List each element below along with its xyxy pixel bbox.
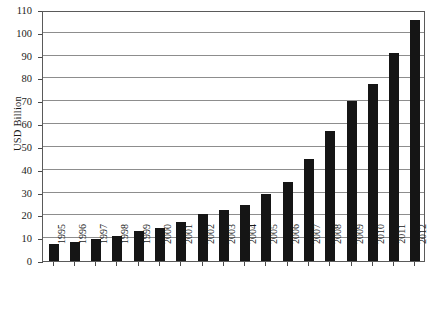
x-axis-tick-mark <box>53 262 54 266</box>
x-axis-tick-mark <box>202 262 203 266</box>
y-axis-tick-mark <box>38 262 43 263</box>
x-axis-tick-label: 2004 <box>248 224 258 266</box>
x-axis-tick-mark <box>223 262 224 266</box>
x-axis-tick-mark <box>159 262 160 266</box>
x-axis-tick-mark <box>265 262 266 266</box>
x-axis-tick-label: 2009 <box>355 224 365 266</box>
x-axis-tick-label: 2006 <box>291 224 301 266</box>
x-axis-tick-label: 2000 <box>163 224 173 266</box>
y-axis-tick-label: 90 <box>2 52 32 62</box>
x-axis-tick-mark <box>372 262 373 266</box>
x-axis-tick-label: 2001 <box>184 224 194 266</box>
x-axis-tick-label: 2002 <box>206 224 216 266</box>
x-axis-tick-mark <box>287 262 288 266</box>
x-axis-tick-mark <box>180 262 181 266</box>
x-axis-tick-mark <box>414 262 415 266</box>
x-axis-tick-label: 2010 <box>376 224 386 266</box>
x-axis-tick-label: 1999 <box>142 224 152 266</box>
x-axis-tick-mark <box>116 262 117 266</box>
x-axis-tick-label: 2008 <box>333 224 343 266</box>
x-axis-tick-label: 1995 <box>57 224 67 266</box>
y-axis-tick-label: 100 <box>2 29 32 39</box>
y-axis-tick-label: 20 <box>2 211 32 221</box>
y-axis-tick-label: 60 <box>2 120 32 130</box>
x-axis-tick-mark <box>351 262 352 266</box>
y-axis-tick-label: 30 <box>2 189 32 199</box>
x-axis-tick-mark <box>244 262 245 266</box>
x-axis-tick-label: 1996 <box>78 224 88 266</box>
y-axis-tick-label: 70 <box>2 97 32 107</box>
x-axis-tick-mark <box>308 262 309 266</box>
x-axis-tick-mark <box>329 262 330 266</box>
y-axis-tick-label: 40 <box>2 166 32 176</box>
y-axis-tick-label: 110 <box>2 6 32 16</box>
x-axis-tick-label: 2005 <box>269 224 279 266</box>
x-axis-tick-label: 2003 <box>227 224 237 266</box>
x-axis-tick-mark <box>95 262 96 266</box>
gridline <box>43 55 424 56</box>
figure-caption <box>0 301 433 311</box>
x-axis-tick-label: 2011 <box>397 224 407 266</box>
x-axis-tick-label: 1998 <box>120 224 130 266</box>
x-axis-tick-label: 2007 <box>312 224 322 266</box>
y-axis-tick-label: 10 <box>2 234 32 244</box>
x-axis-tick-mark <box>393 262 394 266</box>
y-axis-tick-label: 0 <box>2 257 32 267</box>
gridline <box>43 77 424 78</box>
y-axis-tick-label: 80 <box>2 74 32 84</box>
y-axis-tick-label: 50 <box>2 143 32 153</box>
gridline <box>43 32 424 33</box>
bar-chart-figure: USD Billion 0102030405060708090100110 19… <box>0 0 433 311</box>
x-axis-tick-label: 2012 <box>418 224 428 266</box>
x-axis-tick-mark <box>74 262 75 266</box>
x-axis-tick-label: 1997 <box>99 224 109 266</box>
x-axis-tick-mark <box>138 262 139 266</box>
